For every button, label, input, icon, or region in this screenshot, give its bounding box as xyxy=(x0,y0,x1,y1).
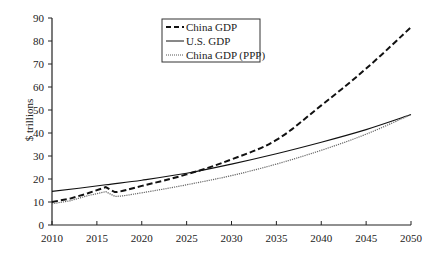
x-tick-label: 2040 xyxy=(310,232,333,244)
x-tick-label: 2030 xyxy=(221,232,244,244)
y-tick-label: 0 xyxy=(39,219,45,231)
series-line-u-s-gdp xyxy=(52,115,411,192)
y-tick-label: 60 xyxy=(33,81,45,93)
x-tick-label: 2025 xyxy=(176,232,199,244)
x-tick-label: 2050 xyxy=(400,232,423,244)
legend-label-china-gdp: China GDP xyxy=(186,21,237,33)
x-tick-label: 2015 xyxy=(86,232,109,244)
y-tick-label: 30 xyxy=(33,150,45,162)
y-tick-label: 90 xyxy=(33,12,45,24)
y-tick-label: 20 xyxy=(33,173,45,185)
y-tick-label: 80 xyxy=(33,35,45,47)
y-axis: 0102030405060708090 xyxy=(33,12,52,231)
x-tick-label: 2035 xyxy=(265,232,288,244)
series-line-china-gdp-ppp xyxy=(52,115,411,204)
legend-label-us-gdp: U.S. GDP xyxy=(186,35,230,47)
x-tick-label: 2020 xyxy=(131,232,154,244)
line-chart: 0102030405060708090 20102015202020252030… xyxy=(0,0,440,260)
y-tick-label: 10 xyxy=(33,196,45,208)
legend-label-china-gdp-ppp: China GDP (PPP) xyxy=(186,49,265,62)
x-tick-label: 2045 xyxy=(355,232,378,244)
x-axis: 201020152020202520302035204020452050 xyxy=(41,221,423,244)
y-axis-title: $ trillions xyxy=(23,99,35,141)
legend: China GDP U.S. GDP China GDP (PPP) xyxy=(162,19,265,62)
y-tick-label: 70 xyxy=(33,58,45,70)
x-tick-label: 2010 xyxy=(41,232,64,244)
